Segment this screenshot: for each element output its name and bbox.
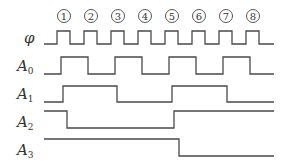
a2-waveform	[44, 111, 274, 128]
pulse-number-6: 6	[193, 10, 206, 23]
timing-diagram: 1 2 3 4 5 6 7 8 φ A0 A1 A2 A3	[0, 0, 289, 163]
a1-waveform	[44, 86, 274, 102]
pulse-number-4: 4	[139, 10, 152, 23]
svg-text:3: 3	[115, 11, 121, 22]
pulse-number-5: 5	[166, 10, 179, 23]
pulse-number-8: 8	[247, 10, 260, 23]
svg-text:4: 4	[142, 11, 148, 22]
signal-label-a2: A2	[15, 113, 34, 132]
svg-text:6: 6	[196, 11, 202, 22]
signal-label-a0: A0	[15, 57, 34, 76]
pulse-number-3: 3	[112, 10, 125, 23]
svg-text:7: 7	[223, 11, 229, 22]
svg-text:2: 2	[88, 11, 94, 22]
clock-label: φ	[24, 29, 35, 47]
clock-waveform	[44, 31, 274, 44]
signal-label-a1: A1	[15, 85, 34, 104]
svg-text:5: 5	[169, 11, 175, 22]
pulse-number-markers: 1 2 3 4 5 6 7 8	[58, 10, 260, 23]
svg-text:1: 1	[61, 11, 67, 22]
pulse-number-7: 7	[220, 10, 233, 23]
pulse-number-1: 1	[58, 10, 71, 23]
signal-label-a3: A3	[15, 141, 34, 160]
a3-waveform	[44, 139, 274, 156]
a0-waveform	[44, 57, 274, 74]
svg-text:8: 8	[250, 11, 256, 22]
pulse-number-2: 2	[85, 10, 98, 23]
